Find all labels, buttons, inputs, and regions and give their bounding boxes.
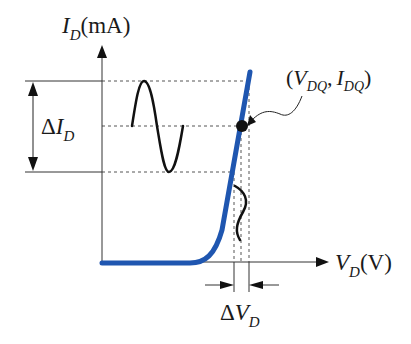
y-axis-label: ID(mA) (61, 13, 130, 43)
delta-v-markers (205, 262, 279, 292)
diode-iv-curve (102, 72, 250, 263)
q-point-label: (VDQ,IDQ) (286, 65, 371, 94)
x-axis-label: VD(V) (335, 250, 392, 280)
q-point-marker (236, 120, 248, 132)
delta-i-arrow (28, 82, 38, 171)
q-point-pointer (247, 96, 302, 126)
delta-i-label: ΔID (41, 114, 74, 144)
delta-v-label: ΔVD (220, 300, 260, 330)
diode-characteristic-diagram: ID(mA) ΔID (VDQ,IDQ) VD(V) ΔVD (0, 0, 411, 344)
y-axis-arrow-icon (97, 45, 107, 58)
x-axis-arrow-icon (316, 257, 329, 267)
